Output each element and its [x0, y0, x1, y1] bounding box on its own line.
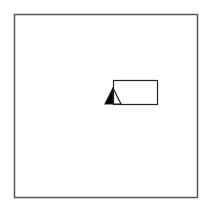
outer-frame — [15, 15, 198, 198]
diagram-canvas — [0, 0, 209, 208]
triangle-marker-icon — [105, 88, 121, 104]
